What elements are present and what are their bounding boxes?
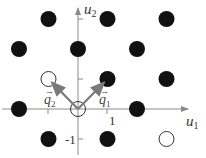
u2-subscript: 2 (92, 8, 97, 19)
lattice-point-filled (129, 41, 145, 57)
lattice-diagram (0, 0, 206, 158)
u2-axis-label: u2 (84, 2, 97, 19)
lattice-point-filled (11, 101, 27, 117)
lattice-point-filled (70, 41, 86, 57)
lattice-point-filled (41, 131, 57, 147)
vector-arrow-glyph: → (45, 87, 54, 96)
vector-arrow-glyph: → (100, 87, 109, 96)
q2-subscript: 2 (51, 99, 56, 109)
tick-label-neg1: -1 (65, 133, 76, 146)
lattice-point-open (159, 132, 174, 147)
lattice-point-filled (41, 11, 57, 27)
lattice-point-filled (100, 131, 116, 147)
u1-axis-label: u1 (186, 114, 199, 131)
u2-letter: u (84, 1, 92, 17)
u1-letter: u (186, 113, 194, 129)
vector-q1-label: →q1 (99, 93, 111, 109)
vector-q2-arrow (52, 83, 78, 109)
lattice-point-filled (159, 11, 175, 27)
lattice-point-filled (100, 11, 116, 27)
lattice-point-filled (129, 101, 145, 117)
lattice-point-filled (11, 41, 27, 57)
tick-label-1: 1 (109, 114, 116, 127)
u1-subscript: 1 (194, 120, 199, 131)
lattice-point-filled (159, 71, 175, 87)
vector-q2-label: →q2 (44, 93, 56, 109)
q1-subscript: 1 (106, 99, 111, 109)
